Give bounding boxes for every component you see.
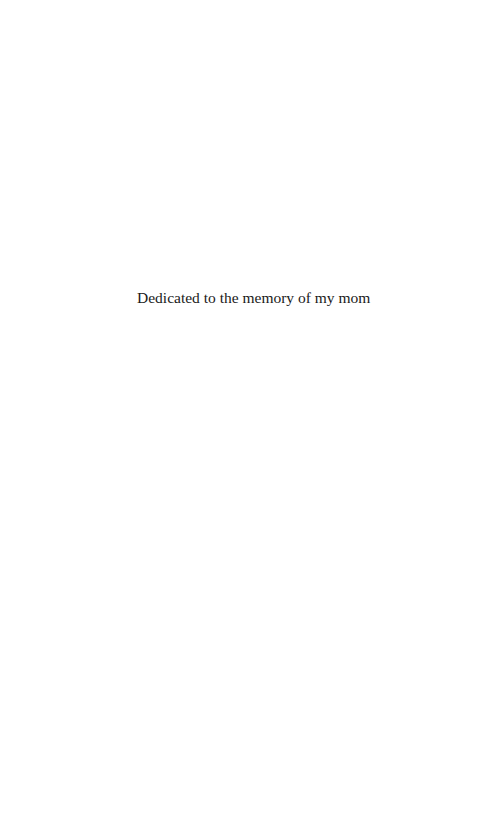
document-page: Dedicated to the memory of my mom xyxy=(0,0,491,813)
dedication-text: Dedicated to the memory of my mom xyxy=(137,288,370,308)
